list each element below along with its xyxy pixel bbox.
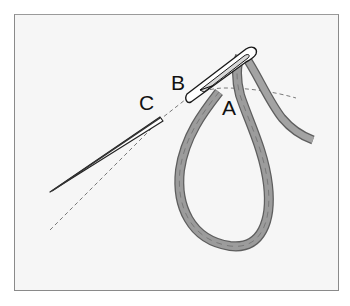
label-b: B [171,71,185,94]
stitch-illustration: C B A [0,0,350,306]
thread-loop [179,56,268,246]
label-c: C [139,91,154,114]
needle-tip [50,117,163,192]
label-a: A [222,96,236,119]
